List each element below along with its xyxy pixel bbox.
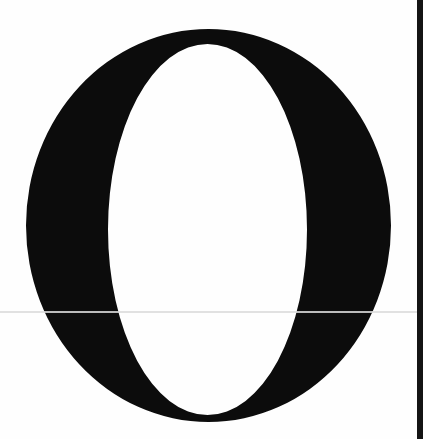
scan-artifact-line [0, 311, 417, 313]
initial-letter-o [0, 0, 423, 439]
page-edge-bar [417, 0, 423, 439]
scanned-page: O [0, 0, 423, 439]
